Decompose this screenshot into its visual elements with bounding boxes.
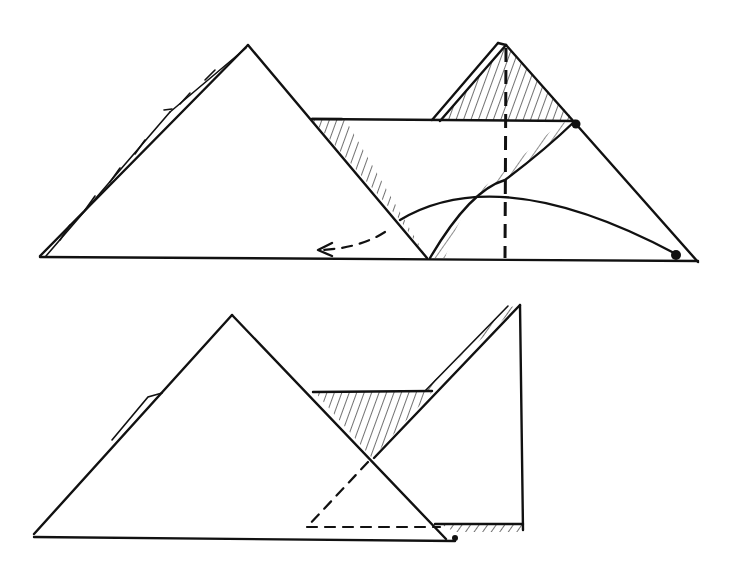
step-1-diagram — [40, 43, 698, 262]
pivot-dot-top — [572, 120, 581, 129]
step-2-baseline — [34, 537, 455, 541]
right-triangle — [400, 43, 698, 262]
large-left-triangle — [40, 45, 427, 258]
origami-diagram — [0, 0, 735, 570]
step-2-diagram — [34, 305, 523, 541]
valley-fold-line — [505, 48, 506, 258]
pivot-dot-bottom — [671, 250, 681, 260]
